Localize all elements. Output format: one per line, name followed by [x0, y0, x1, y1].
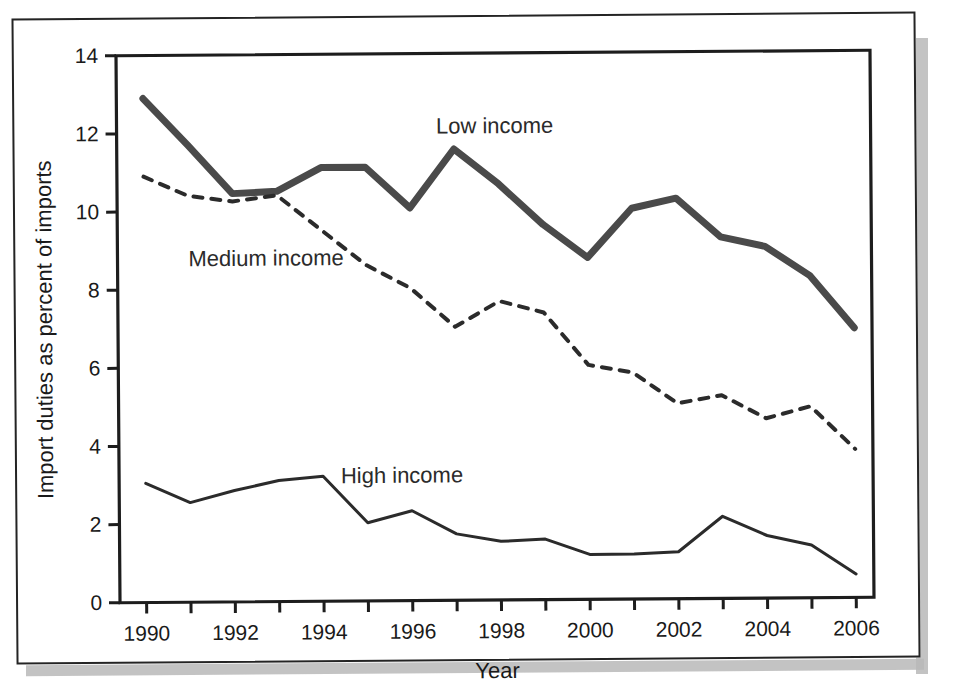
figure-outer-border	[11, 11, 920, 664]
figure-root: 0246810121419901992199419961998200020022…	[0, 0, 964, 694]
